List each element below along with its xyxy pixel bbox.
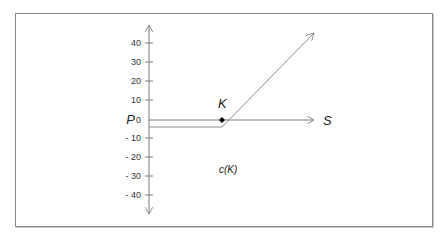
tick-label-10: 10 bbox=[131, 95, 141, 105]
tick-label-neg20: - 20 bbox=[125, 152, 141, 162]
tick-label-20: 20 bbox=[131, 76, 141, 86]
x-axis-label: S bbox=[323, 113, 332, 128]
tick-label-neg40: - 40 bbox=[125, 190, 141, 200]
payoff-line bbox=[149, 33, 314, 127]
tick-label-0: 0 bbox=[136, 115, 141, 125]
premium-label: c(K) bbox=[219, 164, 237, 175]
y-axis-label: P bbox=[126, 112, 135, 127]
strike-marker bbox=[219, 117, 225, 123]
strike-label: K bbox=[218, 96, 228, 111]
tick-label-30: 30 bbox=[131, 57, 141, 67]
tick-label-40: 40 bbox=[131, 38, 141, 48]
payoff-chart: 40 30 20 10 0 - 10 - 20 - 30 - 40 P S K … bbox=[0, 0, 443, 236]
tick-label-neg30: - 30 bbox=[125, 171, 141, 181]
tick-label-neg10: - 10 bbox=[125, 133, 141, 143]
